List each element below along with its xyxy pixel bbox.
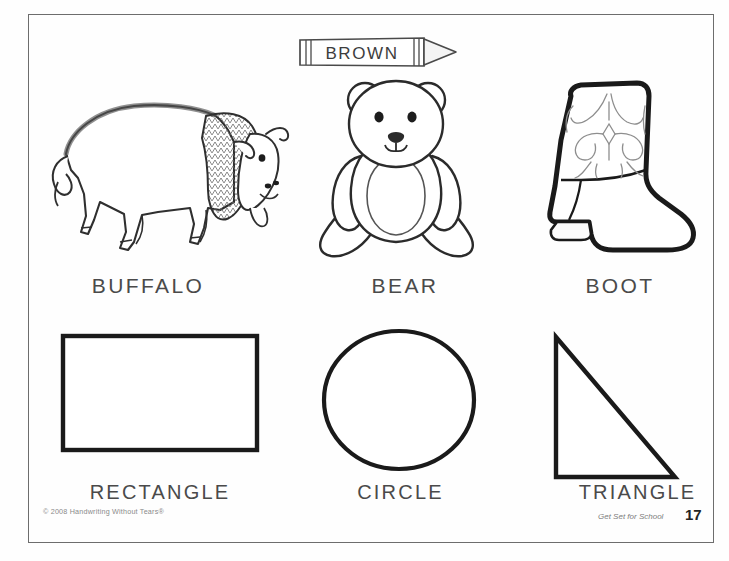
teddy-bear-icon	[303, 72, 493, 267]
boot-illustration	[533, 74, 708, 266]
copyright-notice: © 2008 Handwriting Without Tears®	[43, 507, 164, 516]
bear-label: BEAR	[330, 274, 480, 298]
circle-label: CIRCLE	[323, 481, 478, 504]
buffalo-icon	[38, 82, 300, 262]
triangle-illustration	[548, 331, 680, 483]
crayon-banner: BROWN	[296, 34, 464, 70]
circle-shape-icon	[320, 327, 478, 473]
buffalo-label: BUFFALO	[58, 274, 238, 298]
triangle-label: TRIANGLE	[545, 481, 729, 504]
boot-label: BOOT	[545, 274, 695, 298]
cowboy-boot-icon	[533, 74, 708, 266]
rectangle-illustration	[60, 333, 262, 455]
buffalo-illustration	[38, 82, 300, 262]
rectangle-label: RECTANGLE	[55, 481, 265, 504]
worksheet-page: BROWN	[0, 0, 729, 561]
page-number: 17	[685, 506, 702, 523]
rectangle-shape-icon	[60, 333, 262, 455]
crayon-label: BROWN	[325, 44, 398, 63]
series-name: Get Set for School	[598, 512, 663, 521]
circle-illustration	[320, 327, 478, 473]
bear-illustration	[303, 72, 493, 267]
crayon-icon: BROWN	[296, 34, 464, 70]
triangle-shape-icon	[548, 331, 680, 483]
